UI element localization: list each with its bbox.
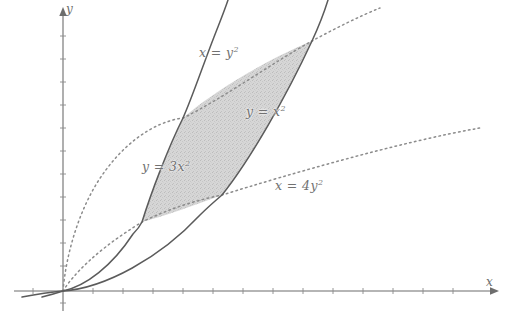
curve-label-y-equals-x-squared: y = x2 <box>246 104 286 119</box>
y-axis-label: y <box>66 2 73 16</box>
figure-canvas <box>0 0 507 319</box>
curve-label-x-equals-y-squared: x = y2 <box>199 45 239 60</box>
parabola-region-figure: x = y2 y = x2 y = 3x2 x = 4y2 y x <box>0 0 507 319</box>
curve-x-equals-4y-squared <box>63 128 480 291</box>
curve-label-x-equals-4y-squared: x = 4y2 <box>275 178 323 193</box>
curve-label-y-equals-3x-squared: y = 3x2 <box>142 159 190 174</box>
x-axis-label: x <box>486 275 493 289</box>
shaded-region <box>142 41 312 222</box>
